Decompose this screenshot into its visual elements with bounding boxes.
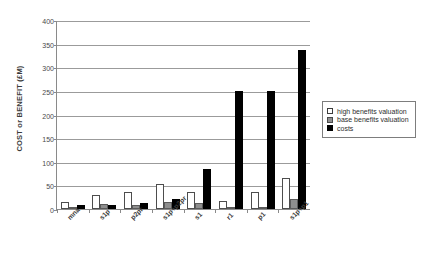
y-tick-label: 300	[42, 65, 54, 72]
bar	[203, 169, 211, 209]
bar	[124, 192, 132, 209]
y-tick-label: 200	[42, 112, 54, 119]
bar-group	[152, 21, 184, 209]
legend-swatch-icon	[327, 108, 333, 114]
bar	[108, 205, 116, 209]
bar	[156, 184, 164, 209]
bar-chart: COST or BENEFIT (£M) 0501001502002503003…	[0, 0, 439, 270]
bar-group	[184, 21, 216, 209]
legend: high benefits valuationbase benefits val…	[322, 101, 416, 138]
legend-label: costs	[337, 125, 353, 132]
y-axis-title: COST or BENEFIT (£M)	[15, 24, 24, 194]
bar-groups	[57, 21, 310, 209]
legend-label: base benefits valuation	[337, 116, 409, 123]
bar-group	[278, 21, 310, 209]
legend-item: high benefits valuation	[327, 108, 409, 115]
legend-swatch-icon	[327, 117, 333, 123]
bar	[251, 192, 259, 209]
bar-group	[89, 21, 121, 209]
y-tick-label: 100	[42, 159, 54, 166]
bar	[219, 201, 227, 209]
y-tick-label: 250	[42, 88, 54, 95]
bar-group	[215, 21, 247, 209]
y-tick-label: 150	[42, 136, 54, 143]
legend-item: base benefits valuation	[327, 116, 409, 123]
bar-group	[247, 21, 279, 209]
bar	[282, 178, 290, 209]
bar	[195, 203, 203, 209]
bar	[267, 91, 275, 209]
y-tick-label: 400	[42, 18, 54, 25]
y-tick-label: 0	[50, 207, 54, 214]
bar	[259, 207, 267, 209]
legend-item: costs	[327, 125, 409, 132]
bar	[187, 192, 195, 209]
bar	[92, 195, 100, 209]
x-axis-label: p1	[256, 210, 267, 221]
bar	[61, 202, 69, 209]
bar-group	[57, 21, 89, 209]
bar	[227, 207, 235, 209]
bar	[235, 91, 243, 209]
legend-label: high benefits valuation	[337, 108, 407, 115]
plot-area: 050100150200250300350400	[56, 21, 310, 210]
legend-swatch-icon	[327, 125, 333, 131]
x-axis-labels: mnas1pp2prs1p+p2prs1r1p1s1p+p1	[56, 212, 310, 262]
y-tick-label: 350	[42, 41, 54, 48]
x-axis-label: s1	[193, 211, 203, 221]
bar-group	[120, 21, 152, 209]
x-axis-label: r1	[225, 211, 235, 221]
bar	[298, 50, 306, 209]
y-tick-label: 50	[46, 183, 54, 190]
